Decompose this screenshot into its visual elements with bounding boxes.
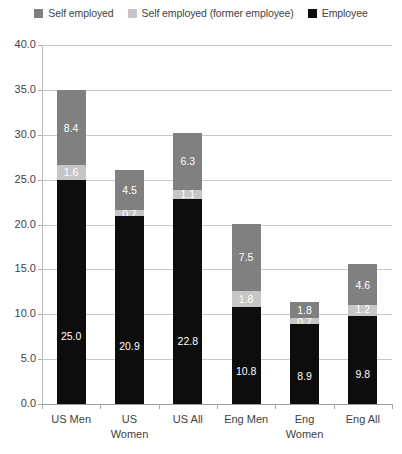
y-axis-tick-label: 20.0 [2, 219, 36, 230]
bar-value-label: 1.8 [290, 305, 319, 316]
chart-legend: Self employed Self employed (former empl… [0, 0, 402, 26]
bar-value-label: 20.9 [115, 341, 144, 352]
x-axis-label-line1: Eng Men [224, 413, 268, 425]
bar-value-label: 10.8 [232, 366, 261, 377]
x-axis-tick [275, 404, 276, 409]
gridline [42, 359, 392, 360]
x-axis-tick [392, 404, 393, 409]
legend-swatch-icon [34, 9, 43, 18]
bar-segment[interactable]: 4.5 [115, 170, 144, 210]
x-axis-label-line1: Eng [295, 413, 315, 425]
bar-value-label: 6.3 [173, 156, 202, 167]
gridline [42, 180, 392, 181]
y-axis-tick-label: 15.0 [2, 263, 36, 274]
gridline [42, 135, 392, 136]
bar-segment[interactable]: 10.8 [232, 307, 261, 404]
x-axis-tick-label: Eng All [328, 412, 398, 427]
legend-item-employee: Employee [308, 8, 368, 19]
y-axis-tick [38, 90, 42, 91]
y-axis-tick-label: 0.0 [2, 398, 36, 409]
x-axis-tick [334, 404, 335, 409]
y-axis-tick-label: 40.0 [2, 39, 36, 50]
bar-value-label: 25.0 [57, 331, 86, 342]
bar-value-label: 1.2 [348, 304, 377, 315]
bar-value-label: 8.4 [57, 122, 86, 133]
gridline [42, 90, 392, 91]
bar-value-label: 7.5 [232, 252, 261, 263]
legend-item-label: Employee [322, 8, 368, 19]
gridline [42, 225, 392, 226]
y-axis-tick [38, 225, 42, 226]
gridline [42, 314, 392, 315]
legend-swatch-icon [308, 9, 317, 18]
x-axis-tick [159, 404, 160, 409]
x-axis-tick [100, 404, 101, 409]
x-axis-label-line1: US All [173, 413, 203, 425]
y-axis-tick [38, 135, 42, 136]
bar-stack[interactable]: 6.31.122.8 [173, 133, 202, 404]
bar-segment[interactable]: 1.6 [57, 165, 86, 179]
y-axis-tick [38, 359, 42, 360]
bar-stack[interactable]: 4.61.29.8 [348, 264, 377, 404]
bar-segment[interactable]: 4.6 [348, 264, 377, 305]
bar-segment[interactable]: 20.9 [115, 216, 144, 404]
bar-value-label: 4.5 [115, 185, 144, 196]
bar-stack[interactable]: 8.41.625.0 [57, 90, 86, 404]
legend-item-self-employed: Self employed [34, 8, 113, 19]
x-axis-label-line1: Eng All [346, 413, 380, 425]
gridline [42, 269, 392, 270]
x-axis-tick [42, 404, 43, 409]
y-axis-tick [38, 180, 42, 181]
bar-segment[interactable]: 8.9 [290, 324, 319, 404]
bar-value-label: 9.8 [348, 369, 377, 380]
y-axis-tick [38, 314, 42, 315]
bar-value-label: 1.6 [57, 167, 86, 178]
bar-segment[interactable]: 8.4 [57, 90, 86, 165]
bar-value-label: 4.6 [348, 279, 377, 290]
x-axis-label-line2: Women [95, 427, 165, 442]
x-axis-label-line1: US Men [51, 413, 91, 425]
x-axis-tick [217, 404, 218, 409]
legend-item-label: Self employed (former employee) [142, 8, 294, 19]
bar-stack[interactable]: 4.50.720.9 [115, 170, 144, 404]
bar-segment[interactable]: 1.1 [173, 190, 202, 200]
y-axis-tick-label: 35.0 [2, 84, 36, 95]
plot-area: 8.41.625.04.50.720.96.31.122.87.51.810.8… [42, 45, 392, 404]
bar-segment[interactable]: 1.2 [348, 305, 377, 316]
legend-swatch-icon [128, 9, 137, 18]
y-axis-tick [38, 45, 42, 46]
bar-stack[interactable]: 1.80.78.9 [290, 302, 319, 404]
x-axis-label-line2: Women [270, 427, 340, 442]
legend-item-self-employed-former: Self employed (former employee) [128, 8, 294, 19]
y-axis-tick-label: 10.0 [2, 308, 36, 319]
y-axis-tick-label: 25.0 [2, 174, 36, 185]
bar-segment[interactable]: 6.3 [173, 133, 202, 190]
bar-value-label: 1.8 [232, 294, 261, 305]
bar-segment[interactable]: 7.5 [232, 224, 261, 291]
bar-segment[interactable]: 1.8 [232, 291, 261, 307]
y-axis-tick-label: 30.0 [2, 129, 36, 140]
legend-item-label: Self employed [48, 8, 113, 19]
y-axis-labels: 0.05.010.015.020.025.030.035.040.0 [0, 45, 36, 405]
bar-segment[interactable]: 25.0 [57, 180, 86, 404]
bar-value-label: 22.8 [173, 336, 202, 347]
bar-segment[interactable]: 22.8 [173, 199, 202, 404]
bar-segment[interactable]: 9.8 [348, 316, 377, 404]
bar-value-label: 8.9 [290, 371, 319, 382]
bar-stack[interactable]: 7.51.810.8 [232, 224, 261, 404]
y-axis-tick [38, 269, 42, 270]
y-axis-tick-label: 5.0 [2, 353, 36, 364]
bar-value-label: 1.1 [173, 189, 202, 200]
x-axis-label-line1: US [122, 413, 137, 425]
gridline [42, 45, 392, 46]
